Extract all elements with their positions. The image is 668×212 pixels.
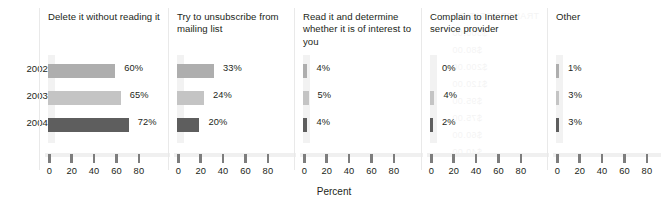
bar-value-label: 60% — [124, 63, 143, 73]
bar-row: 20% — [177, 113, 294, 139]
bar-2002 — [556, 64, 559, 78]
axis-tick-label: 20 — [195, 166, 206, 176]
axis-tick — [93, 154, 96, 163]
axis-tick — [452, 154, 455, 163]
bar-value-label: 4% — [443, 90, 457, 100]
bar-2004 — [556, 118, 559, 132]
panel-title: Delete it without reading it — [48, 11, 163, 23]
bar-value-label: 3% — [568, 117, 582, 127]
bar-2003 — [48, 91, 121, 105]
panel-plot-area: 1%3%3% — [556, 55, 659, 145]
bar-value-label: 4% — [316, 117, 330, 127]
axis-tick — [556, 154, 559, 163]
panel-divider — [168, 8, 169, 170]
panel-plot-area: 33%24%20% — [177, 55, 294, 145]
chart-panel: Complain to Internet service provider0%4… — [421, 0, 547, 212]
bar-value-label: 4% — [316, 63, 330, 73]
bar-2002 — [48, 64, 115, 78]
axis-tick-label: 40 — [218, 166, 229, 176]
bar-value-label: 0% — [442, 63, 456, 73]
axis-tick — [578, 154, 581, 163]
bar-2002 — [303, 64, 307, 78]
bar-row: 2% — [430, 113, 547, 139]
axis-tick — [199, 154, 202, 163]
axis-tick-label: 0 — [302, 166, 307, 176]
axis-tick — [646, 154, 649, 163]
axis-tick-label: 40 — [597, 166, 608, 176]
axis-line — [45, 153, 170, 157]
bar-row: 1% — [556, 59, 659, 85]
panel-plot-area: 0%4%2% — [430, 55, 547, 145]
axis-tick — [267, 154, 270, 163]
panel-divider — [547, 8, 548, 170]
bar-value-label: 2% — [442, 117, 456, 127]
bar-value-label: 72% — [138, 117, 157, 127]
axis-line — [300, 153, 423, 157]
axis-tick — [177, 154, 180, 163]
axis-tick-label: 60 — [366, 166, 377, 176]
bar-value-label: 5% — [318, 90, 332, 100]
axis-tick — [520, 154, 523, 163]
bar-2004 — [303, 118, 307, 132]
chart-panel: Try to unsubscribe from mailing list33%2… — [168, 0, 294, 212]
panel-divider — [39, 8, 40, 170]
axis-tick — [222, 154, 225, 163]
bar-2004 — [177, 118, 199, 132]
axis-tick — [370, 154, 373, 163]
axis-tick-label: 80 — [642, 166, 653, 176]
axis-tick — [601, 154, 604, 163]
axis-tick-label: 40 — [89, 166, 100, 176]
axis-tick — [70, 154, 73, 163]
panel-plot-area: 60%65%72% — [48, 55, 168, 145]
bar-row: 60% — [48, 59, 168, 85]
panel-plot-area: 4%5%4% — [303, 55, 421, 145]
small-multiples-bar-chart: TRANSPORTATION$500.00$80.00$200.00$120.0… — [0, 0, 668, 212]
axis-tick — [497, 154, 500, 163]
axis-tick — [393, 154, 396, 163]
axis-tick-label: 0 — [555, 166, 560, 176]
bar-row: 4% — [303, 113, 421, 139]
axis-tick — [348, 154, 351, 163]
bar-value-label: 3% — [568, 90, 582, 100]
panel-title: Complain to Internet service provider — [430, 11, 545, 36]
axis-tick — [138, 154, 141, 163]
bar-row: 72% — [48, 113, 168, 139]
panel-title: Try to unsubscribe from mailing list — [177, 11, 292, 36]
bar-row: 65% — [48, 86, 168, 112]
bar-value-label: 1% — [568, 63, 582, 73]
chart-panel: Delete it without reading it60%65%72%020… — [39, 0, 168, 212]
chart-panel: Other1%3%3%020406080 — [547, 0, 659, 212]
axis-tick — [475, 154, 478, 163]
bar-2004 — [48, 118, 129, 132]
bar-value-label: 20% — [208, 117, 227, 127]
axis-tick — [48, 154, 51, 163]
chart-panel: Read it and determine whether it is of i… — [294, 0, 421, 212]
bar-row: 3% — [556, 113, 659, 139]
axis-tick-label: 40 — [471, 166, 482, 176]
bar-row: 4% — [430, 86, 547, 112]
axis-tick-label: 0 — [176, 166, 181, 176]
axis-tick-label: 60 — [619, 166, 630, 176]
axis-tick — [303, 154, 306, 163]
axis-tick-label: 80 — [389, 166, 400, 176]
axis-tick-label: 80 — [516, 166, 527, 176]
panel-divider — [421, 8, 422, 170]
axis-tick-label: 20 — [448, 166, 459, 176]
axis-line — [427, 153, 549, 157]
axis-tick-label: 20 — [321, 166, 332, 176]
bar-2003 — [556, 91, 559, 105]
bar-row: 4% — [303, 59, 421, 85]
axis-tick-label: 20 — [574, 166, 585, 176]
bar-2004 — [430, 118, 433, 132]
panel-title: Read it and determine whether it is of i… — [303, 11, 418, 48]
panel-container: Delete it without reading it60%65%72%020… — [0, 0, 668, 212]
bar-row: 33% — [177, 59, 294, 85]
axis-tick-label: 60 — [493, 166, 504, 176]
axis-tick-label: 20 — [66, 166, 77, 176]
bar-value-label: 65% — [130, 90, 149, 100]
axis-tick-label: 80 — [263, 166, 274, 176]
bar-2003 — [430, 91, 434, 105]
bar-2002 — [177, 64, 214, 78]
bar-2003 — [303, 91, 309, 105]
axis-tick — [244, 154, 247, 163]
